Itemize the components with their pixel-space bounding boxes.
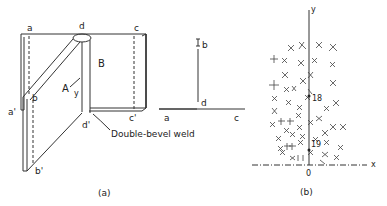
scatter-markers xyxy=(269,42,346,164)
label-c-prime: c' xyxy=(129,113,136,123)
weld-figure: a d c B A y b a' c' d' b' Double-bevel w… xyxy=(0,0,387,206)
section-label-b: b xyxy=(202,40,208,50)
point-label-19: 19 xyxy=(311,140,321,149)
label-a-prime: a' xyxy=(8,107,16,117)
section-label-a: a xyxy=(164,113,170,123)
label-d: d xyxy=(79,21,85,31)
caption-b: (b) xyxy=(300,187,313,197)
weld-top xyxy=(73,34,91,42)
weld-callout: Double-bevel weld xyxy=(111,129,195,139)
point-label-18: 18 xyxy=(312,94,322,103)
label-c: c xyxy=(134,23,139,33)
axis-y-label: y xyxy=(311,5,316,14)
label-y: y xyxy=(74,89,79,98)
label-plate-a: A xyxy=(62,83,69,94)
label-b: b xyxy=(32,93,38,103)
origin-label: 0 xyxy=(306,169,311,178)
label-a: a xyxy=(27,23,33,33)
label-d-prime: d' xyxy=(82,120,90,130)
label-plate-b: B xyxy=(98,58,105,69)
plate-b-outline xyxy=(21,34,146,108)
caption-a: (a) xyxy=(98,188,111,198)
section-label-d: d xyxy=(201,98,207,108)
axis-x-label: x xyxy=(371,160,376,169)
label-b-prime: b' xyxy=(35,166,43,176)
section-label-c: c xyxy=(234,113,239,123)
